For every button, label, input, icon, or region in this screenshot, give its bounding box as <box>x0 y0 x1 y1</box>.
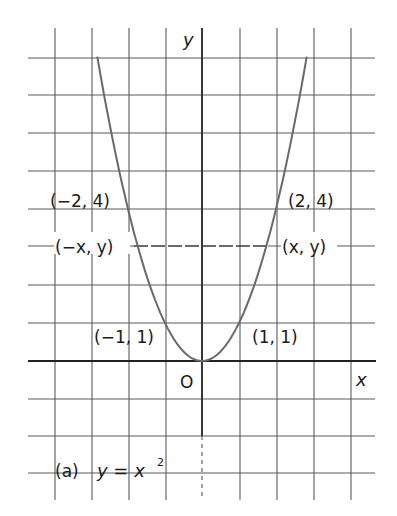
y-axis-label: y <box>182 29 194 50</box>
axes <box>28 28 376 500</box>
x-axis-label: x <box>355 369 367 390</box>
origin-label: O <box>180 372 193 392</box>
caption-prefix: (a) <box>55 461 79 481</box>
point-label-2-4: (2, 4) <box>288 191 334 211</box>
caption-equation: y = x <box>96 460 145 481</box>
point-label-neg1-1: (−1, 1) <box>94 327 154 347</box>
point-label-negx-y: (−x, y) <box>55 237 113 257</box>
point-label-x-y: (x, y) <box>282 237 326 257</box>
point-label-neg2-4: (−2, 4) <box>50 191 110 211</box>
point-label-1-1: (1, 1) <box>252 327 298 347</box>
caption-exponent: 2 <box>157 456 164 469</box>
plot-canvas: y x O (−2, 4) (2, 4) (−x, y) (x, y) (−1,… <box>0 0 397 516</box>
parabola-figure: y x O (−2, 4) (2, 4) (−x, y) (x, y) (−1,… <box>0 0 397 516</box>
